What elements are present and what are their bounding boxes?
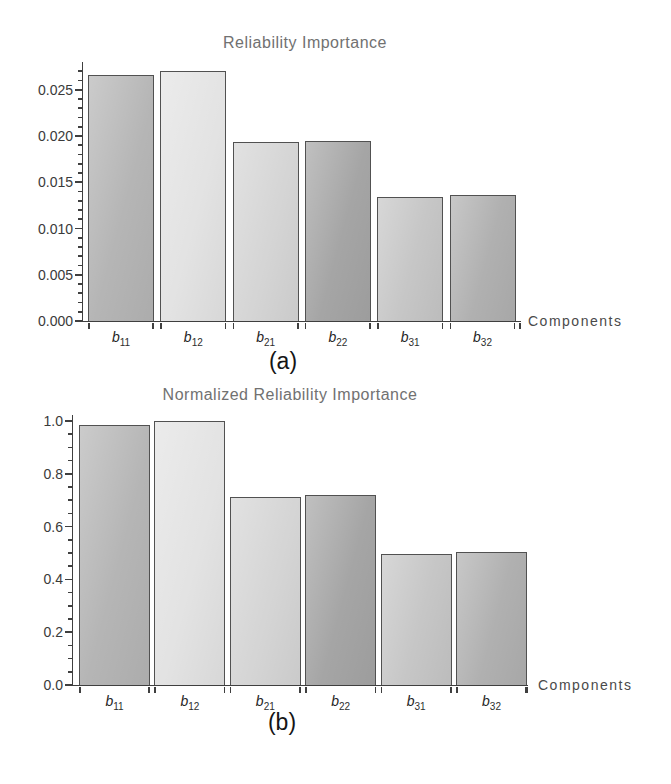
y-axis-major-tick: [65, 473, 73, 475]
y-axis-tick-label: 0.6: [17, 518, 63, 536]
y-axis-minor-tick: [68, 513, 73, 515]
y-axis-tick-label: 0.0: [17, 676, 63, 694]
y-axis-minor-tick: [68, 645, 73, 647]
y-axis-minor-tick: [68, 499, 73, 501]
y-axis-major-tick: [65, 579, 73, 581]
bar-b12: [154, 421, 225, 685]
y-axis-minor-tick: [68, 447, 73, 449]
y-axis-minor-tick: [68, 671, 73, 673]
bar-b22: [305, 495, 376, 685]
figure: Reliability Importance 0.0000.0050.0100.…: [0, 0, 671, 784]
chart-normalized-reliability-importance: Normalized Reliability Importance 0.00.2…: [0, 0, 671, 784]
y-axis-tick-label: 0.4: [17, 570, 63, 588]
y-axis-tick-label: 1.0: [17, 412, 63, 430]
y-axis-minor-tick: [68, 592, 73, 594]
bar-b31: [381, 554, 452, 685]
y-axis-major-tick: [65, 631, 73, 633]
chart-title: Normalized Reliability Importance: [75, 386, 505, 404]
y-axis-major-tick: [65, 684, 73, 686]
caption-b: (b): [0, 709, 564, 736]
y-axis-tick-label: 0.2: [17, 623, 63, 641]
x-axis-title: Components: [538, 677, 632, 693]
y-axis-major-tick: [65, 526, 73, 528]
bar-b11: [79, 425, 150, 685]
y-axis-minor-tick: [68, 618, 73, 620]
y-axis-tick-label: 0.8: [17, 465, 63, 483]
plot-area: 0.00.20.40.60.81.0b11b12b21b22b31b32: [72, 415, 528, 686]
y-axis-minor-tick: [68, 605, 73, 607]
y-axis-minor-tick: [68, 552, 73, 554]
y-axis-minor-tick: [68, 658, 73, 660]
y-axis-minor-tick: [68, 433, 73, 435]
y-axis-minor-tick: [68, 460, 73, 462]
y-axis-major-tick: [65, 420, 73, 422]
y-axis-minor-tick: [68, 486, 73, 488]
y-axis-minor-tick: [68, 565, 73, 567]
y-axis-minor-tick: [68, 539, 73, 541]
bar-b21: [230, 497, 301, 685]
x-axis-end-tick: [526, 687, 528, 693]
bar-b32: [456, 552, 527, 685]
